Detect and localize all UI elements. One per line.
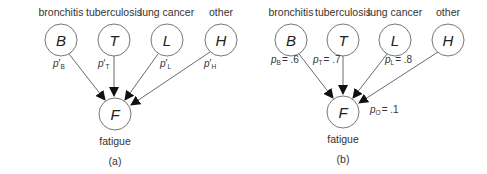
node-l: L [379,24,411,56]
prob-leak: pO= .1 [369,104,399,116]
label-fatigue: fatigue [327,133,359,145]
node-h: H [205,24,237,56]
svg-text:F: F [338,104,348,121]
svg-text:F: F [110,106,120,123]
label-lung-cancer: lung cancer [368,6,423,18]
caption-b: (b) [337,153,350,165]
node-f: F [327,96,359,128]
node-b: B [45,24,77,56]
prob-b: pB= .6 [270,54,299,66]
svg-text:B: B [56,32,66,49]
node-f: F [99,98,131,130]
svg-text:B: B [286,32,296,49]
prob-l: pL= .8 [384,54,413,66]
label-other: other [209,6,233,18]
node-l: L [151,24,183,56]
svg-text:H: H [443,32,454,49]
node-b: B [275,24,307,56]
edge-h-to-f [131,52,210,105]
noisy-or-diagrams: bronchitis tuberculosis lung cancer othe… [0,0,487,174]
prob-b-prime: p′B [52,58,65,70]
edge-l-to-f [125,54,158,100]
prob-t: pT= .7 [312,54,341,66]
prob-l-prime: p′L [159,58,171,70]
label-bronchitis: bronchitis [269,6,314,18]
label-lung-cancer: lung cancer [140,6,195,18]
label-other: other [436,6,460,18]
node-h: H [432,24,464,56]
label-tuberculosis: tuberculosis [86,6,142,18]
node-t: T [98,24,130,56]
edge-l-to-f [353,54,387,98]
svg-text:H: H [216,32,227,49]
node-t: T [327,24,359,56]
panel-a: bronchitis tuberculosis lung cancer othe… [39,6,237,167]
label-fatigue: fatigue [99,135,131,147]
svg-text:L: L [391,32,399,49]
svg-text:L: L [163,32,171,49]
label-bronchitis: bronchitis [39,6,84,18]
prob-t-prime: p′T [97,58,109,70]
prob-h-prime: p′H [203,58,216,70]
panel-b: bronchitis tuberculosis lung cancer othe… [269,6,464,165]
label-tuberculosis: tuberculosis [315,6,371,18]
caption-a: (a) [109,155,122,167]
